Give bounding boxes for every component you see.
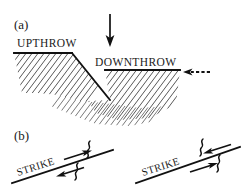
deep-block-hatching bbox=[20, 70, 188, 150]
panel-b-group: (b) STRIKE bbox=[12, 128, 240, 183]
left-squiggle-upper bbox=[87, 141, 90, 158]
fault-diagram-figure: (a) UPTHROW DOWNTHROW bbox=[0, 0, 247, 189]
panel-b-label: (b) bbox=[14, 128, 29, 143]
extension-arrow bbox=[183, 69, 210, 76]
panel-a-label: (a) bbox=[14, 17, 28, 32]
right-lateral-strike-slip-fault: STRIKE bbox=[136, 139, 240, 183]
downward-motion-arrow bbox=[106, 14, 115, 47]
left-lateral-strike-slip-fault: STRIKE bbox=[12, 141, 113, 183]
right-squiggle-lower bbox=[217, 155, 220, 172]
left-squiggle-lower bbox=[75, 163, 78, 180]
panel-a-group: (a) UPTHROW DOWNTHROW bbox=[0, 14, 216, 150]
downthrow-label: DOWNTHROW bbox=[95, 56, 177, 68]
right-lower-shear-arrow bbox=[190, 163, 218, 172]
fault-diagram-canvas: (a) UPTHROW DOWNTHROW bbox=[0, 0, 247, 189]
upthrow-label: UPTHROW bbox=[17, 37, 77, 49]
upthrow-block-hatching bbox=[0, 40, 132, 120]
right-squiggle-upper bbox=[200, 139, 203, 156]
left-lower-shear-arrow bbox=[56, 168, 84, 177]
